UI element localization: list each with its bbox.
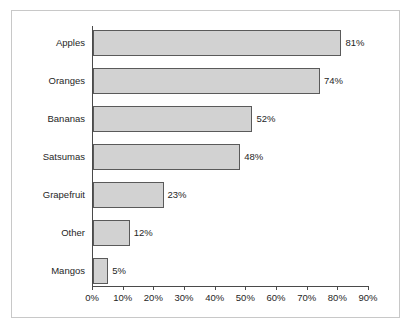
x-axis-tick-mark: [337, 286, 338, 290]
bar-value-label: 23%: [164, 182, 187, 208]
bar-row: Mangos5%: [12, 258, 399, 284]
x-axis-tick-label: 40%: [205, 292, 224, 303]
x-axis-line: [92, 286, 368, 287]
bar-row: Satsumas48%: [12, 144, 399, 170]
x-axis-tick-label: 0%: [85, 292, 99, 303]
x-axis-tick-mark: [123, 286, 124, 290]
bar-row: Oranges74%: [12, 68, 399, 94]
x-axis-tick-mark: [153, 286, 154, 290]
bar-value-label: 74%: [320, 68, 343, 94]
bar-row: Other12%: [12, 220, 399, 246]
category-label: Oranges: [49, 68, 90, 94]
category-label: Grapefruit: [43, 182, 90, 208]
x-axis-tick-label: 60%: [266, 292, 285, 303]
bar-value-label: 52%: [252, 106, 275, 132]
bar: [93, 30, 341, 56]
x-axis-tick-mark: [276, 286, 277, 290]
bar-value-label: 81%: [341, 30, 364, 56]
bar-row: Grapefruit23%: [12, 182, 399, 208]
category-label: Apples: [56, 30, 90, 56]
bar: [93, 182, 164, 208]
category-label: Bananas: [47, 106, 90, 132]
x-axis-tick-label: 90%: [358, 292, 377, 303]
bar: [93, 106, 252, 132]
bar: [93, 68, 320, 94]
plot-area: Apples81%Oranges74%Bananas52%Satsumas48%…: [12, 11, 399, 317]
bar-value-label: 12%: [130, 220, 153, 246]
category-label: Other: [61, 220, 90, 246]
bar: [93, 220, 130, 246]
x-axis-tick-mark: [368, 286, 369, 290]
bar-value-label: 48%: [240, 144, 263, 170]
x-axis-tick-mark: [215, 286, 216, 290]
x-axis-tick-mark: [245, 286, 246, 290]
x-axis-tick-label: 20%: [144, 292, 163, 303]
bar-row: Bananas52%: [12, 106, 399, 132]
category-label: Mangos: [51, 258, 90, 284]
bar-row: Apples81%: [12, 30, 399, 56]
x-axis-tick-label: 80%: [328, 292, 347, 303]
x-axis-tick-mark: [92, 286, 93, 290]
x-axis-tick-label: 50%: [236, 292, 255, 303]
x-axis-tick-mark: [184, 286, 185, 290]
x-axis-tick-label: 70%: [297, 292, 316, 303]
category-label: Satsumas: [43, 144, 90, 170]
x-axis-tick-label: 30%: [174, 292, 193, 303]
chart-frame: Apples81%Oranges74%Bananas52%Satsumas48%…: [11, 10, 400, 318]
x-axis-tick-label: 10%: [113, 292, 132, 303]
bar: [93, 258, 108, 284]
bar-value-label: 5%: [108, 258, 126, 284]
x-axis-tick-mark: [307, 286, 308, 290]
bar: [93, 144, 240, 170]
